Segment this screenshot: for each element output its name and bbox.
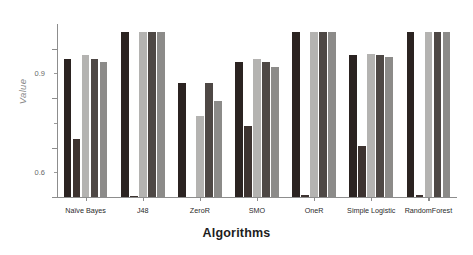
bar <box>214 101 222 197</box>
bar <box>425 32 433 197</box>
bar <box>91 59 99 197</box>
bar <box>407 32 415 197</box>
x-axis-title: Algorithms <box>0 226 473 240</box>
bar <box>385 57 393 197</box>
bar <box>319 32 327 197</box>
x-tick-label: RandomForest <box>405 206 453 215</box>
bar-chart: Value 0.00.30.60.9 Naïve BayesJ48ZeroRSM… <box>0 0 473 255</box>
x-tick <box>200 197 201 201</box>
x-tick <box>314 197 315 201</box>
y-tick-minor <box>54 172 57 173</box>
bar <box>253 59 261 197</box>
y-tick-major: 0.3 <box>52 148 57 149</box>
bar <box>310 32 318 197</box>
x-tick <box>257 197 258 201</box>
bar <box>328 32 336 197</box>
bar <box>376 55 384 197</box>
x-tick-label: J48 <box>137 206 149 215</box>
x-tick <box>86 197 87 201</box>
bar <box>178 83 186 197</box>
y-tick-label: 0.6 <box>35 168 45 177</box>
bar <box>73 139 81 197</box>
bar <box>358 146 366 197</box>
x-tick <box>143 197 144 201</box>
bar <box>443 32 451 197</box>
y-axis-line <box>57 24 58 197</box>
bar <box>416 195 424 197</box>
y-tick-minor <box>54 73 57 74</box>
y-tick-major: 0.9 <box>52 49 57 50</box>
bar <box>262 62 270 197</box>
bar <box>157 32 165 197</box>
bar <box>349 55 357 197</box>
x-tick <box>428 197 429 201</box>
x-tick-label: OneR <box>305 206 324 215</box>
bar <box>235 62 243 197</box>
y-tick-major: 0.0 <box>52 197 57 198</box>
bar <box>244 126 252 197</box>
x-tick <box>371 197 372 201</box>
bar <box>301 195 309 197</box>
plot-area: 0.00.30.60.9 Naïve BayesJ48ZeroRSMOOneRS… <box>57 24 457 197</box>
bar <box>139 32 147 197</box>
bar <box>196 116 204 197</box>
bar <box>292 32 300 197</box>
bar <box>82 55 90 197</box>
y-axis-title: Value <box>17 62 28 122</box>
bar <box>367 54 375 197</box>
x-tick-label: Naïve Bayes <box>65 206 106 215</box>
x-tick-label: Simple Logistic <box>347 206 395 215</box>
bar <box>100 62 108 197</box>
x-tick-label: ZeroR <box>190 206 210 215</box>
bar <box>64 59 72 197</box>
x-tick-label: SMO <box>249 206 265 215</box>
y-tick-label: 0.9 <box>35 69 45 78</box>
bar <box>205 83 213 197</box>
bar <box>271 67 279 197</box>
bar <box>121 32 129 197</box>
y-tick-minor <box>54 123 57 124</box>
bar <box>434 32 442 197</box>
y-tick-major: 0.6 <box>52 98 57 99</box>
bar <box>148 32 156 197</box>
bar <box>130 196 138 197</box>
